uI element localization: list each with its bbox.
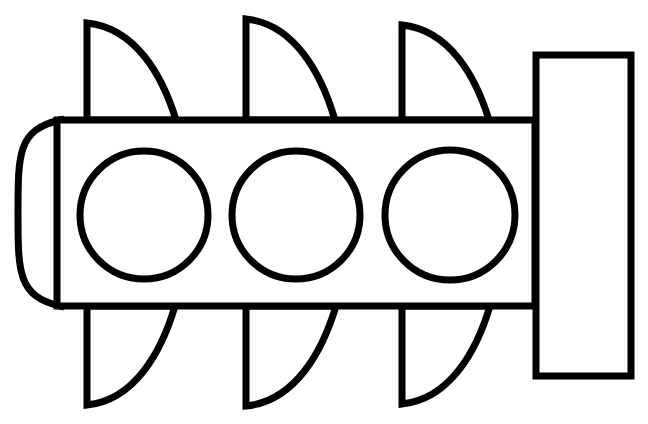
circle-2	[232, 151, 360, 279]
bottom-fin-3	[402, 306, 490, 404]
fish-tail	[536, 55, 631, 376]
bottom-fin-1	[87, 306, 175, 405]
body-circles	[80, 150, 515, 280]
circle-3	[385, 150, 515, 280]
fish-drawing	[0, 0, 648, 424]
top-fin-3	[402, 25, 489, 120]
bottom-fins	[87, 306, 490, 406]
circle-1	[80, 151, 208, 279]
top-fins	[87, 19, 489, 120]
top-fin-2	[246, 19, 335, 120]
top-fin-1	[87, 23, 176, 120]
bottom-fin-2	[246, 306, 336, 406]
